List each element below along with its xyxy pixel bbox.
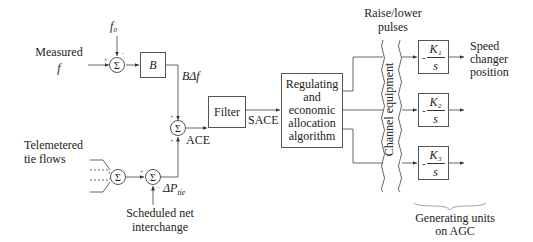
agc-block-diagram: Measured f f₀ Σ + − B BΔf Telemetered ti…: [0, 0, 533, 242]
measured-f-symbol: f: [34, 62, 84, 75]
bias-block-B: B: [140, 52, 166, 78]
b-delta-f-label: BΔf: [182, 70, 200, 83]
sign-minus: −: [121, 50, 124, 56]
k2-numerator: K₂: [430, 96, 442, 108]
ace-label: ACE: [186, 134, 210, 147]
k2-denominator: s: [433, 113, 438, 125]
telemetered-label: Telemetered tie flows: [24, 138, 83, 166]
measured-label: Measured: [34, 46, 84, 59]
sign-minus: −: [157, 184, 160, 190]
generating-line2: on AGC: [405, 225, 505, 238]
k1-sign: -: [422, 51, 425, 64]
scheduled-net-interchange-label: Scheduled net interchange: [110, 206, 210, 234]
scheduled-line2: interchange: [110, 220, 210, 234]
regulating-allocation-block: Regulating and economic allocation algor…: [281, 73, 343, 148]
tie-subscript: tie: [177, 188, 185, 197]
b-delta-f-text: BΔf: [182, 69, 200, 83]
sign-plus: +: [104, 57, 107, 63]
summing-junction-frequency: Σ: [109, 57, 125, 73]
sign-plus: +: [140, 169, 143, 175]
filter-block: Filter: [208, 96, 246, 128]
sign-plus: +: [170, 138, 173, 144]
summing-junction-net-interchange: Σ: [145, 169, 161, 185]
summing-junction-ace: Σ: [170, 120, 186, 136]
sign-plus: +: [170, 114, 173, 120]
scheduled-line1: Scheduled net: [110, 206, 210, 220]
delta-p-tie-label: ΔPtie: [163, 182, 185, 199]
generating-units-label: Generating units on AGC: [405, 212, 505, 238]
raise-lower-line2: pulses: [358, 20, 428, 34]
raise-lower-line1: Raise/lower: [358, 6, 428, 20]
unit-block-k2: - K₂s: [418, 93, 449, 127]
k1-denominator: s: [433, 60, 438, 72]
sace-label: SACE: [248, 114, 279, 127]
speed-line3: position: [470, 66, 509, 79]
k3-sign: -: [422, 157, 425, 170]
f0-label: f₀: [110, 20, 118, 33]
summing-junction-tie-flows: Σ: [110, 169, 126, 185]
unit-block-k1: - K₁s: [418, 40, 449, 74]
telemetered-line2: tie flows: [24, 152, 83, 166]
speed-changer-position-label: Speed changer position: [470, 40, 509, 79]
k3-numerator: K₃: [430, 149, 442, 161]
regulating-line: algorithm: [289, 130, 336, 143]
telemetered-line1: Telemetered: [24, 138, 83, 152]
unit-block-k3: - K₃s: [418, 146, 449, 180]
channel-equipment-label: Channel equipment: [383, 58, 396, 162]
k1-numerator: K₁: [430, 43, 442, 55]
delta-p-text: ΔP: [163, 181, 177, 195]
raise-lower-pulses-label: Raise/lower pulses: [358, 6, 428, 34]
k2-sign: -: [422, 104, 425, 117]
k3-denominator: s: [433, 166, 438, 178]
